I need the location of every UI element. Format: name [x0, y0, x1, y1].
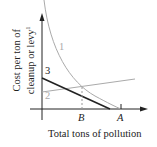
line-2 — [42, 79, 135, 92]
x-axis-label: Total tons of pollution — [48, 128, 141, 139]
y-axis-label-line1: Cost per ton of — [12, 10, 23, 110]
footnote-marker: 1 — [24, 26, 30, 29]
y-axis-label: Cost per ton of cleanup or levy1 — [12, 10, 37, 110]
curve-label-2: 2 — [45, 90, 50, 101]
y-axis-label-text: cleanup or levy — [25, 29, 36, 94]
line-3 — [42, 78, 110, 109]
curve-label-1: 1 — [59, 41, 64, 52]
tick-label-b: B — [78, 112, 84, 123]
tick-label-a: A — [117, 112, 123, 123]
y-axis-label-line2: cleanup or levy1 — [22, 10, 36, 110]
y-axis-arrow-icon — [40, 13, 45, 21]
x-axis-arrow-icon — [140, 107, 148, 112]
curve-label-3: 3 — [45, 65, 50, 76]
